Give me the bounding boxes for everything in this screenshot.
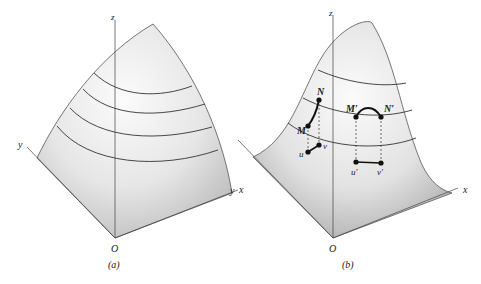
surface-a: [37, 24, 232, 238]
surface-b: [253, 22, 452, 238]
figure-canvas: z y O (a) z y x x O: [0, 0, 481, 284]
point-v: [316, 142, 321, 147]
z-label-b: z: [328, 8, 333, 18]
caption-b: (b): [342, 259, 354, 271]
label-Np: N′: [383, 103, 394, 114]
point-up: [353, 159, 358, 164]
caption-a: (a): [108, 259, 120, 271]
z-label-a: z: [110, 12, 115, 22]
origin-label-b: O: [329, 243, 336, 254]
origin-label-a: O: [111, 243, 118, 254]
point-N: [316, 97, 321, 102]
point-Np: [378, 114, 383, 119]
panel-b: z y x x O (b) N M u v M′ N′ u′ v′: [229, 8, 468, 271]
label-N: N: [316, 86, 325, 97]
label-vp: v′: [377, 167, 384, 177]
point-Mp: [353, 114, 358, 119]
y-label-b: y: [229, 185, 235, 196]
y-label-a: y: [17, 139, 23, 150]
panel-a: z y O (a): [17, 12, 238, 271]
point-M: [305, 123, 310, 128]
label-up: u′: [351, 167, 359, 177]
label-M: M: [296, 125, 307, 136]
segment-upvp: [356, 162, 381, 163]
point-vp: [378, 160, 383, 165]
label-Mp: M′: [345, 103, 358, 114]
label-v: v: [323, 141, 327, 151]
point-u: [305, 149, 310, 154]
x-label-a: x: [238, 184, 244, 195]
label-u: u: [299, 149, 304, 159]
x-label-b: x: [462, 184, 468, 195]
